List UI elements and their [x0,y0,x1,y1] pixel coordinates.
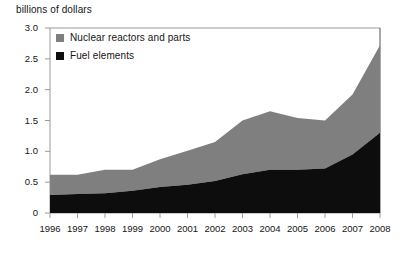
x-axis-ticks [50,213,380,218]
legend-swatch-icon [56,52,64,60]
legend-item-fuel-elements: Fuel elements [56,48,190,63]
x-axis-tick-label: 1999 [118,223,148,234]
y-axis-ticks [45,28,50,213]
legend-item-nuclear-reactors-and-parts: Nuclear reactors and parts [56,30,190,45]
x-axis-tick-label: 2008 [365,223,395,234]
x-axis-tick-label: 2004 [255,223,285,234]
x-axis-tick-label: 1997 [63,223,93,234]
legend-swatch-icon [56,34,64,42]
y-axis-tick-label: 0 [12,207,38,218]
chart-legend: Nuclear reactors and parts Fuel elements [56,30,190,66]
x-axis-tick-label: 2006 [310,223,340,234]
x-axis-tick-label: 1998 [90,223,120,234]
x-axis-tick-label: 2000 [145,223,175,234]
y-axis-tick-label: 2.0 [12,84,38,95]
x-axis-tick-label: 1996 [35,223,65,234]
y-axis-tick-label: 1.0 [12,145,38,156]
x-axis-tick-label: 2005 [283,223,313,234]
legend-label: Nuclear reactors and parts [70,32,190,43]
y-axis-tick-label: 1.5 [12,115,38,126]
x-axis-tick-label: 2007 [338,223,368,234]
legend-label: Fuel elements [70,50,134,61]
stacked-area-chart: billions of dollars 00.51.01.52.02.53.0 … [0,0,409,257]
x-axis-tick-label: 2003 [228,223,258,234]
y-axis-tick-label: 2.5 [12,53,38,64]
x-axis-tick-label: 2001 [173,223,203,234]
y-axis-tick-label: 3.0 [12,22,38,33]
x-axis-tick-label: 2002 [200,223,230,234]
y-axis-tick-label: 0.5 [12,176,38,187]
